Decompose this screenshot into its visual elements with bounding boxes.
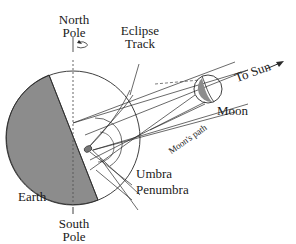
umbra-label: Umbra — [136, 167, 172, 180]
earth-label: Earth — [18, 190, 46, 203]
moon-label: Moon — [217, 104, 248, 117]
umbra-spot — [83, 144, 93, 153]
south-pole-label: South Pole — [55, 217, 93, 243]
eclipse-track-label: Eclipse Track — [115, 24, 165, 50]
north-pole-label: North Pole — [55, 13, 93, 39]
eclipse-track-label-line2: Track — [115, 37, 165, 50]
moon — [194, 75, 222, 103]
south-pole-label-line2: Pole — [55, 230, 93, 243]
umbra-leader-line — [90, 152, 132, 185]
north-pole-label-line2: Pole — [55, 26, 93, 39]
penumbra-label: Penumbra — [136, 183, 189, 196]
penumbra-leader-line — [96, 170, 132, 200]
earth-night-side — [6, 75, 98, 205]
